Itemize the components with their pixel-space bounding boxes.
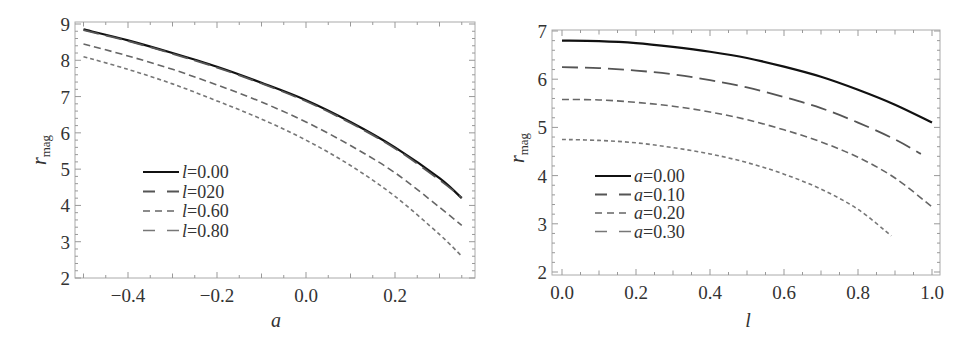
chart-right-rmag-vs-l: 0.00.20.40.60.81.0 234567 l rmag a=0.00a… [506,21,944,331]
series-line [84,30,462,197]
legend-label: l=0.60 [182,201,229,221]
y-axis-label: rmag [28,134,53,165]
tick-marks [75,22,475,278]
y-tick-label: 3 [538,214,548,235]
y-tick-label: 7 [538,21,548,42]
y-tick-label: 2 [61,268,71,289]
y-tick-label: 7 [61,87,71,108]
x-tick-labels: 0.00.20.40.60.81.0 [550,282,944,303]
legend: l=0.00l=020l=0.60l=0.80 [143,162,229,241]
x-tick-label: 0.4 [698,282,722,303]
x-tick-label: 0.6 [772,282,796,303]
y-tick-label: 5 [61,159,71,180]
series-lines [562,41,932,236]
x-tick-labels: −0.4−0.20.00.2 [111,285,407,306]
plot-frame [552,30,940,275]
plot-frame [75,22,475,278]
legend-label: l=0.80 [182,221,229,241]
x-tick-label: −0.2 [200,285,234,306]
x-axis-label: l [745,309,751,331]
y-axis-label: rmag [506,132,531,163]
x-tick-label: 0.0 [294,285,318,306]
y-tick-labels: 234567 [538,21,548,283]
tick-marks [552,30,940,275]
chart-left-rmag-vs-a: −0.4−0.20.00.2 23456789 a rmag l=0.00l=0… [28,14,475,331]
legend-label: a=0.30 [634,222,685,242]
y-tick-label: 6 [61,123,71,144]
y-tick-label: 8 [61,50,71,71]
y-tick-label: 4 [538,166,548,187]
y-tick-label: 6 [538,69,548,90]
legend-label: a=0.10 [634,185,685,205]
x-tick-label: 0.8 [846,282,870,303]
x-tick-label: 0.2 [624,282,648,303]
x-axis-label: a [271,309,281,331]
y-tick-label: 2 [538,262,548,283]
x-tick-label: 0.2 [383,285,407,306]
legend-label: l=0.00 [182,162,229,182]
series-line [562,41,932,123]
x-tick-label: −0.4 [111,285,146,306]
series-line [84,29,462,198]
series-line [84,44,462,225]
series-lines [84,29,462,256]
x-tick-label: 1.0 [920,282,944,303]
legend: a=0.00a=0.10a=0.20a=0.30 [595,166,685,242]
y-tick-label: 9 [61,14,71,35]
y-tick-label: 5 [538,117,548,138]
figure: −0.4−0.20.00.2 23456789 a rmag l=0.00l=0… [0,0,973,346]
series-line [562,67,921,154]
legend-label: a=0.00 [634,166,685,186]
legend-label: a=0.20 [634,203,685,223]
y-tick-label: 4 [61,195,71,216]
series-line [562,99,932,206]
y-tick-label: 3 [61,232,71,253]
x-tick-label: 0.0 [550,282,574,303]
legend-label: l=020 [182,182,224,202]
series-line [562,139,891,235]
y-tick-labels: 23456789 [61,14,71,289]
